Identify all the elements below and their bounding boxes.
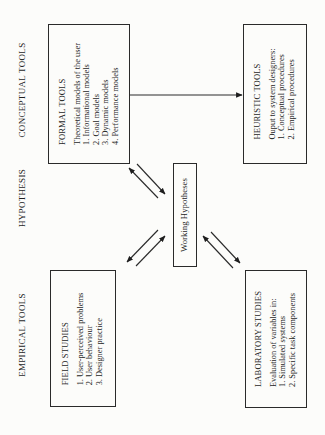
working-hypotheses-box: Working Hypotheses (173, 163, 197, 267)
row-label-hypothesis: HYPOTHESIS (12, 170, 32, 225)
field-studies-line: 3. Designer practice (95, 292, 105, 385)
formal-tools-title: FORMAL TOOLS (58, 43, 68, 145)
heuristic-tools-box: HEURISTIC TOOLS Ouput to system designer… (243, 24, 307, 164)
laboratory-studies-line: Evaluation of variables in: (269, 291, 279, 387)
formal-tools-line: 2. Goal models (92, 43, 102, 145)
row-label-empirical-text: EMPIRICAL TOOLS (17, 293, 27, 377)
laboratory-studies-title: LABORATORY STUDIES (254, 291, 264, 387)
laboratory-studies-line: 2. Specific task components (288, 291, 298, 387)
laboratory-studies-box: LABORATORY STUDIES Evaluation of variabl… (245, 270, 307, 408)
formal-tools-box: FORMAL TOOLS Theoretical models of the u… (48, 24, 130, 164)
laboratory-studies-line: 1. Simulated systems (279, 291, 289, 387)
formal-tools-line: Theoretical models of the user (72, 43, 82, 145)
row-label-conceptual: CONCEPTUAL TOOLS (12, 30, 32, 150)
formal-tools-line: 3. Dynamic models (101, 43, 111, 145)
formal-tools-content: FORMAL TOOLS Theoretical models of the u… (58, 43, 121, 145)
formal-tools-line: 4. Performance models (111, 43, 121, 145)
laboratory-studies-content: LABORATORY STUDIES Evaluation of variabl… (254, 291, 297, 387)
field-studies-title: FIELD STUDIES (61, 292, 71, 385)
heuristic-tools-title: HEURISTIC TOOLS (253, 49, 263, 140)
diagram-canvas: CONCEPTUAL TOOLS HYPOTHESIS EMPIRICAL TO… (0, 0, 325, 435)
formal-tools-line: 1. Informational models (82, 43, 92, 145)
heuristic-tools-content: HEURISTIC TOOLS Ouput to system designer… (253, 49, 296, 140)
arrow-pair-field-hypotheses (127, 230, 165, 266)
field-studies-box: FIELD STUDIES 1. User-perceived problems… (50, 270, 116, 407)
row-label-conceptual-text: CONCEPTUAL TOOLS (17, 43, 27, 138)
field-studies-line: 1. User-perceived problems (76, 292, 86, 385)
arrow-pair-formal-hypotheses (129, 164, 165, 198)
row-label-hypothesis-text: HYPOTHESIS (17, 168, 27, 226)
working-hypotheses-content: Working Hypotheses (180, 178, 190, 252)
heuristic-tools-line: Ouput to system designers: (268, 49, 278, 140)
heuristic-tools-line: 2. Empirical procedures (287, 49, 297, 140)
arrow-pair-lab-hypotheses (203, 232, 240, 268)
row-label-empirical: EMPIRICAL TOOLS (12, 275, 32, 395)
working-hypotheses-title: Working Hypotheses (179, 178, 189, 252)
field-studies-line: 2. User behaviour (86, 292, 96, 385)
heuristic-tools-line: 1. Conceptual procedures (278, 49, 288, 140)
field-studies-content: FIELD STUDIES 1. User-perceived problems… (61, 292, 104, 385)
